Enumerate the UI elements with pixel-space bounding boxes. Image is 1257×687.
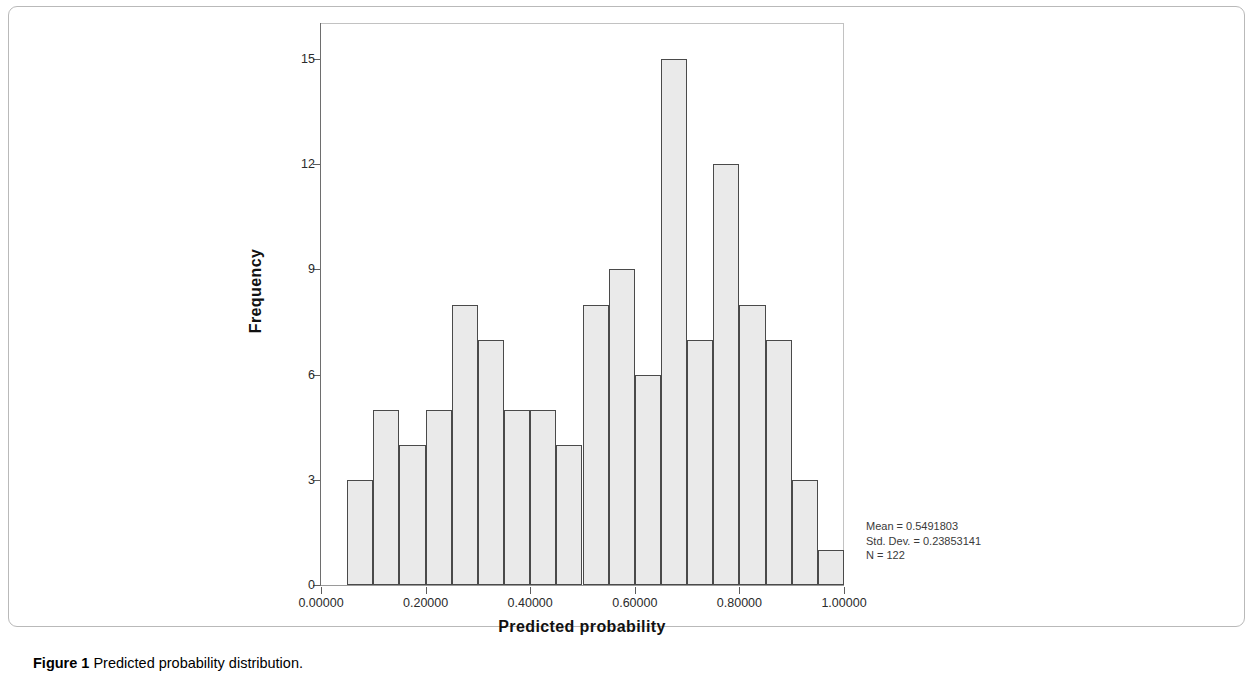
- x-tick-mark: [321, 587, 322, 594]
- y-tick-label: 6: [308, 368, 315, 381]
- statistics-annotation: Mean = 0.5491803 Std. Dev. = 0.23853141 …: [866, 519, 981, 563]
- histogram-bar: [766, 340, 792, 585]
- histogram-bar: [347, 480, 373, 585]
- histogram-bars: [321, 24, 844, 585]
- y-tick-label: 3: [308, 474, 315, 487]
- figure-caption: Figure 1 Predicted probability distribut…: [33, 655, 303, 671]
- x-tick-label: 0.60000: [612, 597, 657, 610]
- x-tick-mark: [739, 587, 740, 594]
- y-tick-label: 15: [301, 53, 315, 66]
- histogram-bar: [661, 59, 687, 585]
- y-tick-label: 12: [301, 158, 315, 171]
- stat-n: N = 122: [866, 548, 981, 563]
- histogram-bar: [452, 305, 478, 586]
- histogram-bar: [504, 410, 530, 585]
- stat-mean: Mean = 0.5491803: [866, 519, 981, 534]
- stat-std-dev: Std. Dev. = 0.23853141: [866, 534, 981, 549]
- figure-panel: 03691215 0.000000.200000.400000.600000.8…: [8, 6, 1245, 627]
- histogram-bar: [583, 305, 609, 586]
- x-tick-mark: [635, 587, 636, 594]
- x-tick-label: 0.40000: [508, 597, 553, 610]
- y-tick-label: 9: [308, 263, 315, 276]
- histogram-bar: [373, 410, 399, 585]
- x-tick-label: 1.00000: [821, 597, 866, 610]
- histogram-bar: [478, 340, 504, 585]
- x-tick-label: 0.80000: [717, 597, 762, 610]
- histogram-chart: 03691215 0.000000.200000.400000.600000.8…: [9, 7, 1244, 626]
- x-tick-mark: [530, 587, 531, 594]
- x-tick-label: 0.00000: [298, 597, 343, 610]
- histogram-bar: [426, 410, 452, 585]
- x-tick-mark: [844, 587, 845, 594]
- x-tick-label: 0.20000: [403, 597, 448, 610]
- histogram-bar: [792, 480, 818, 585]
- x-axis-line: [321, 585, 844, 586]
- y-axis-line: [320, 23, 321, 586]
- histogram-bar: [556, 445, 582, 585]
- x-axis-title: Predicted probability: [498, 618, 666, 636]
- x-tick-mark: [426, 587, 427, 594]
- y-axis-title: Frequency: [247, 249, 265, 334]
- figure-caption-text: Predicted probability distribution.: [93, 655, 303, 671]
- histogram-bar: [687, 340, 713, 585]
- histogram-bar: [739, 305, 765, 586]
- histogram-bar: [399, 445, 425, 585]
- histogram-bar: [609, 269, 635, 585]
- figure-caption-label: Figure 1: [33, 655, 89, 671]
- histogram-bar: [635, 375, 661, 585]
- histogram-bar: [818, 550, 844, 585]
- histogram-bar: [713, 164, 739, 585]
- y-tick-label: 0: [308, 579, 315, 592]
- histogram-bar: [530, 410, 556, 585]
